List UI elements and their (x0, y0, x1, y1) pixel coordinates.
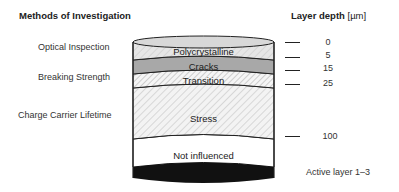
depth-value-100: 100 (318, 131, 342, 141)
wafer-layer-cylinder (0, 0, 399, 192)
layer-label-cracks: Cracks (133, 61, 274, 72)
depth-tick-5 (285, 57, 300, 58)
layer-label-not-influenced: Not influenced (133, 150, 274, 161)
layer-label-transition: Transition (133, 75, 274, 86)
layer-stress (133, 84, 274, 139)
layer-label-polycrystalline: Polycrystalline (133, 46, 274, 57)
layer-base (133, 163, 274, 184)
layer-label-stress: Stress (133, 113, 274, 124)
active-layer-note: Active layer 1–3 (306, 167, 370, 177)
depth-value-25: 25 (316, 78, 340, 88)
depth-tick-15 (285, 70, 300, 71)
depth-value-15: 15 (316, 63, 340, 73)
depth-tick-25 (285, 84, 300, 85)
depth-tick-100 (285, 136, 300, 137)
depth-value-5: 5 (316, 50, 340, 60)
depth-value-0: 0 (316, 37, 340, 47)
depth-tick-0 (285, 42, 300, 43)
